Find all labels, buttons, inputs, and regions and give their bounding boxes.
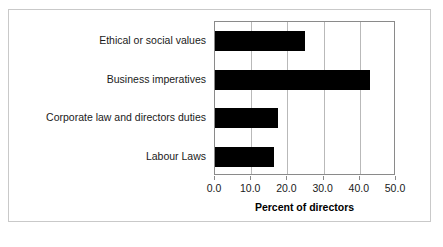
- x-tick-label: 20.0: [276, 182, 296, 194]
- bar-row: [215, 99, 394, 138]
- category-label: Corporate law and directors duties: [46, 111, 206, 123]
- x-tick-label: 50.0: [385, 182, 405, 194]
- bar: [215, 147, 274, 167]
- x-tick-mark: [250, 176, 251, 180]
- bar-row: [215, 22, 394, 61]
- x-tick-label: 10.0: [240, 182, 260, 194]
- x-tick-label: 30.0: [312, 182, 332, 194]
- x-tick-mark: [359, 176, 360, 180]
- bar-row: [215, 61, 394, 100]
- x-tick-label: 0.0: [207, 182, 222, 194]
- bar: [215, 108, 278, 128]
- x-tick-mark: [214, 176, 215, 180]
- category-label: Ethical or social values: [99, 34, 206, 46]
- x-axis-title: Percent of directors: [214, 201, 395, 213]
- x-tick-mark: [395, 176, 396, 180]
- bar: [215, 31, 305, 51]
- bar: [215, 70, 370, 90]
- bar-row: [215, 138, 394, 177]
- chart-figure: Ethical or social valuesBusiness imperat…: [8, 9, 431, 222]
- plot-area: [214, 21, 395, 175]
- x-tick-mark: [323, 176, 324, 180]
- category-label: Business imperatives: [107, 73, 206, 85]
- x-tick-label: 40.0: [349, 182, 369, 194]
- x-tick-mark: [286, 176, 287, 180]
- category-label: Labour Laws: [146, 150, 206, 162]
